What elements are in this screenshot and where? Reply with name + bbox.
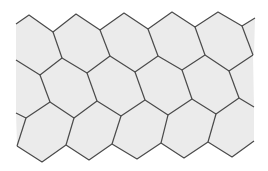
hexagon-grid-graphic	[0, 0, 268, 171]
tiled-region-fill	[16, 12, 255, 162]
hex-tessellation	[0, 0, 268, 171]
